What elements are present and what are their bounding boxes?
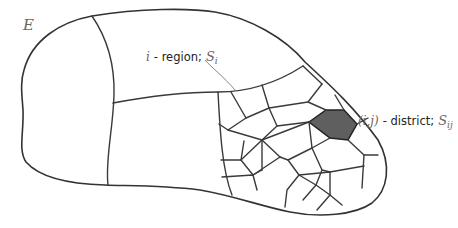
district-text: - district; <box>383 114 434 128</box>
region-text: - region; <box>154 50 202 64</box>
district-symbol: S <box>438 113 447 128</box>
set-label-e: E <box>23 18 34 33</box>
set-symbol: E <box>23 16 34 34</box>
region-index: i <box>146 50 150 64</box>
region-label: i - region; Si <box>146 48 218 64</box>
region-symbol: S <box>206 49 215 64</box>
district-label: (i,j) - district; Sij <box>358 112 453 128</box>
district-subscript: ij <box>447 120 453 130</box>
region-subscript: i <box>215 56 218 66</box>
district-index: (i,j) <box>358 114 379 128</box>
